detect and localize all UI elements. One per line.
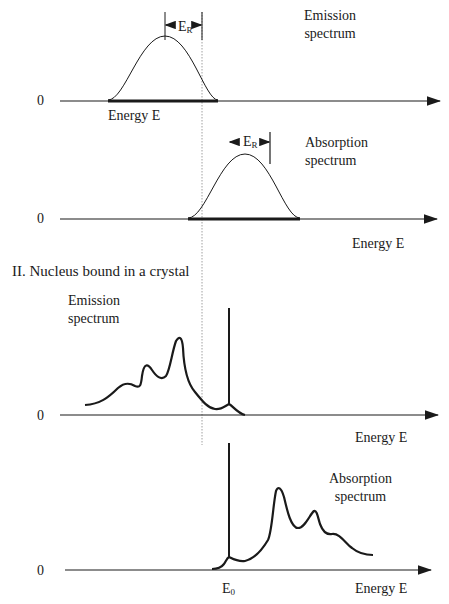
zero-label: 0 [37,563,44,579]
title-line-1: Emission [68,293,120,309]
title-line-2: spectrum [68,311,120,327]
emission-phonon-sideband-curve [85,338,245,415]
energy-axis-label: Energy E [355,430,407,446]
energy-axis-label: Energy E [108,108,160,124]
section-heading: II. Nucleus bound in a crystal [12,263,189,279]
zero-label: 0 [37,211,44,227]
recoil-label-subscript: R [187,25,193,35]
crystal-absorption-title: Absorption spectrum [329,471,392,505]
title-line-1: Absorption [305,135,368,151]
title-line-2: spectrum [305,153,368,169]
energy-axis-label: Energy E [352,236,404,252]
zero-label: 0 [37,408,44,424]
title-line-1: Emission [304,8,356,24]
absorption-gaussian-curve [188,154,300,218]
title-line-2: spectrum [329,489,392,505]
panel-free-emission [60,12,440,101]
e0-label: E0 [222,581,235,600]
recoil-label-subscript: R [252,140,258,150]
e0-subscript: 0 [231,587,236,597]
title-line-2: spectrum [304,26,356,42]
panel-crystal-absorption [65,443,431,570]
recoil-label-symbol: E [178,19,187,34]
zero-label: 0 [37,93,44,109]
recoil-energy-label: ER [243,134,258,153]
recoil-energy-label: ER [178,19,193,38]
recoil-label-symbol: E [243,134,252,149]
title-line-1: Absorption [329,471,392,487]
emission-gaussian-curve [108,36,218,100]
crystal-emission-title: Emission spectrum [68,293,120,327]
free-emission-title: Emission spectrum [304,8,356,42]
free-absorption-title: Absorption spectrum [305,135,368,169]
e0-symbol: E [222,581,231,596]
energy-axis-label: Energy E [355,581,407,597]
